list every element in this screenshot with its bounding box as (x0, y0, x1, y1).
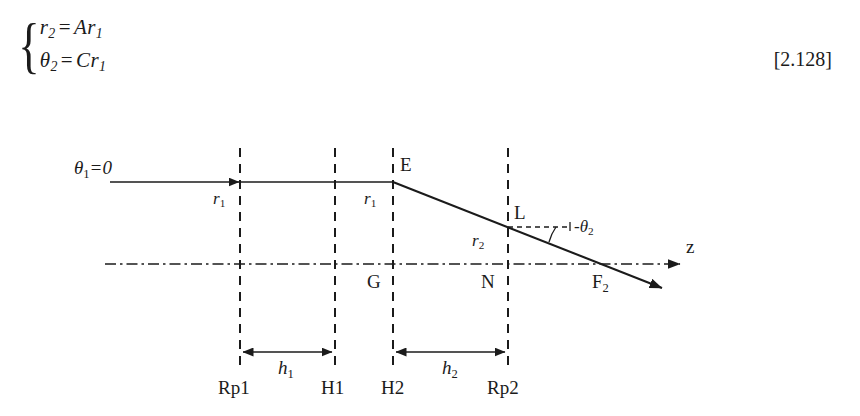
label-minus-theta2-text: -θ2 (574, 217, 594, 236)
label-point-g: G (367, 272, 381, 291)
label-point-e-text: E (400, 154, 412, 175)
label-plane-rp1-text: Rp1 (218, 377, 250, 398)
label-point-f2-text: F2 (592, 271, 609, 292)
label-point-n: N (481, 272, 495, 291)
label-r1-first: r1 (213, 190, 225, 209)
label-plane-h2: H2 (381, 378, 404, 397)
label-point-n-text: N (481, 271, 495, 292)
label-plane-h1-text: H1 (321, 377, 344, 398)
label-point-f2: F2 (592, 272, 609, 294)
label-plane-h1: H1 (321, 378, 344, 397)
label-h2-text: h2 (442, 357, 458, 378)
label-point-e: E (400, 155, 412, 174)
label-plane-rp2-text: Rp2 (487, 377, 519, 398)
label-r2-text: r2 (472, 231, 484, 250)
angle-arc (549, 227, 556, 242)
label-r1-second: r1 (364, 190, 376, 209)
label-h2: h2 (442, 358, 458, 380)
figure-page: { r2=Ar1 θ2=Cr1 [2.128] (0, 0, 860, 416)
label-point-l-text: L (514, 202, 526, 223)
refracted-ray (393, 182, 662, 288)
label-plane-rp2: Rp2 (487, 378, 519, 397)
label-r1-second-text: r1 (364, 189, 376, 208)
label-plane-rp1: Rp1 (218, 378, 250, 397)
label-point-g-text: G (367, 271, 381, 292)
label-axis-z: z (686, 237, 694, 256)
label-minus-theta2: -θ2 (574, 218, 594, 237)
label-r2: r2 (472, 232, 484, 251)
label-point-l: L (514, 203, 526, 222)
label-axis-z-text: z (686, 236, 694, 257)
label-theta1: θ1=0 (74, 158, 112, 180)
label-r1-first-text: r1 (213, 189, 225, 208)
label-h1-text: h1 (278, 357, 294, 378)
ray-diagram (0, 0, 860, 416)
label-plane-h2-text: H2 (381, 377, 404, 398)
label-h1: h1 (278, 358, 294, 380)
label-theta1-text: θ1=0 (74, 157, 112, 178)
